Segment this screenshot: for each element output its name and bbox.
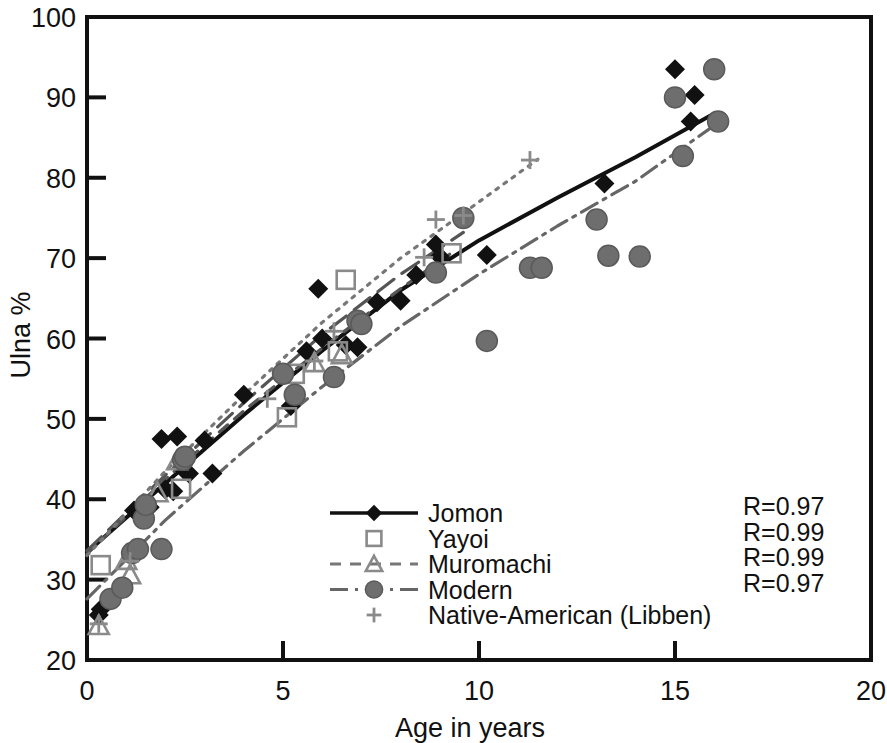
y-tick-label: 70 — [46, 244, 76, 274]
y-tick-label: 50 — [46, 405, 76, 435]
y-tick-label: 60 — [46, 325, 76, 355]
filled-circle-marker — [665, 87, 686, 108]
filled-circle-marker — [704, 59, 725, 80]
y-axis-title: Ulna % — [6, 291, 36, 378]
filled-circle-marker — [708, 111, 729, 132]
x-tick-label: 5 — [275, 676, 290, 706]
y-tick-label: 100 — [31, 3, 76, 33]
x-axis-title: Age in years — [395, 713, 545, 743]
legend-label: Modern — [428, 576, 513, 604]
y-tick-label: 80 — [46, 164, 76, 194]
plus-marker — [427, 211, 445, 229]
correlation-value: R=0.99 — [743, 518, 824, 546]
legend-item-native-american-libben[interactable]: Native-American (Libben) — [367, 601, 712, 629]
filled-diamond-marker — [366, 505, 382, 521]
y-axis-tick-labels: 2030405060708090100 — [31, 3, 76, 676]
chart-legend: JomonYayoiMuromachiModernNative-American… — [330, 499, 711, 629]
trend-line — [87, 126, 714, 599]
correlation-value: R=0.97 — [743, 569, 824, 597]
filled-circle-marker — [586, 209, 607, 230]
open-square-marker — [337, 271, 355, 289]
filled-circle-marker — [629, 246, 650, 267]
filled-circle-marker — [135, 494, 156, 515]
filled-circle-marker — [273, 363, 294, 384]
x-tick-label: 0 — [79, 676, 94, 706]
filled-circle-marker — [323, 367, 344, 388]
legend-item-yayoi[interactable]: Yayoi — [367, 525, 489, 553]
filled-diamond-marker — [477, 245, 497, 265]
filled-diamond-marker — [367, 292, 387, 312]
filled-circle-marker — [365, 581, 382, 598]
legend-label: Jomon — [428, 499, 503, 527]
filled-circle-marker — [476, 330, 497, 351]
filled-circle-marker — [672, 146, 693, 167]
legend-label: Native-American (Libben) — [428, 601, 711, 629]
x-tick-label: 10 — [464, 676, 494, 706]
filled-diamond-marker — [151, 429, 171, 449]
x-tick-label: 20 — [856, 676, 886, 706]
filled-circle-marker — [531, 257, 552, 278]
y-tick-label: 30 — [46, 566, 76, 596]
trend-curves — [87, 114, 714, 599]
filled-diamond-marker — [202, 464, 222, 484]
filled-circle-marker — [175, 446, 196, 467]
plus-marker — [367, 608, 382, 623]
legend-item-modern[interactable]: Modern — [330, 576, 513, 604]
filled-circle-marker — [351, 314, 372, 335]
filled-diamond-marker — [685, 85, 705, 105]
plus-marker — [521, 151, 539, 169]
data-points — [89, 59, 729, 634]
chart-figure: 2030405060708090100 05101520 Ulna % Age … — [0, 0, 887, 743]
y-tick-label: 20 — [46, 646, 76, 676]
filled-diamond-marker — [167, 427, 187, 447]
open-square-marker — [367, 531, 382, 546]
series-modern — [100, 59, 729, 610]
legend-item-jomon[interactable]: Jomon — [330, 499, 503, 527]
trend-line — [87, 114, 714, 553]
filled-diamond-marker — [665, 59, 685, 79]
filled-circle-marker — [598, 245, 619, 266]
legend-label: Muromachi — [428, 550, 552, 578]
x-tick-label: 15 — [660, 676, 690, 706]
series-jomon — [89, 59, 705, 625]
legend-item-muromachi[interactable]: Muromachi — [330, 550, 552, 578]
correlation-annotations: R=0.97R=0.99R=0.99R=0.97 — [743, 492, 824, 597]
filled-circle-marker — [425, 262, 446, 283]
y-tick-label: 90 — [46, 83, 76, 113]
filled-circle-marker — [284, 384, 305, 405]
legend-label: Yayoi — [428, 525, 489, 553]
y-tick-label: 40 — [46, 485, 76, 515]
filled-diamond-marker — [308, 279, 328, 299]
filled-circle-marker — [112, 577, 133, 598]
correlation-value: R=0.99 — [743, 543, 824, 571]
scatter-plot-canvas: 2030405060708090100 05101520 Ulna % Age … — [0, 0, 887, 743]
open-square-marker — [92, 556, 110, 574]
correlation-value: R=0.97 — [743, 492, 824, 520]
x-axis-tick-labels: 05101520 — [79, 676, 886, 706]
filled-circle-marker — [151, 539, 172, 560]
